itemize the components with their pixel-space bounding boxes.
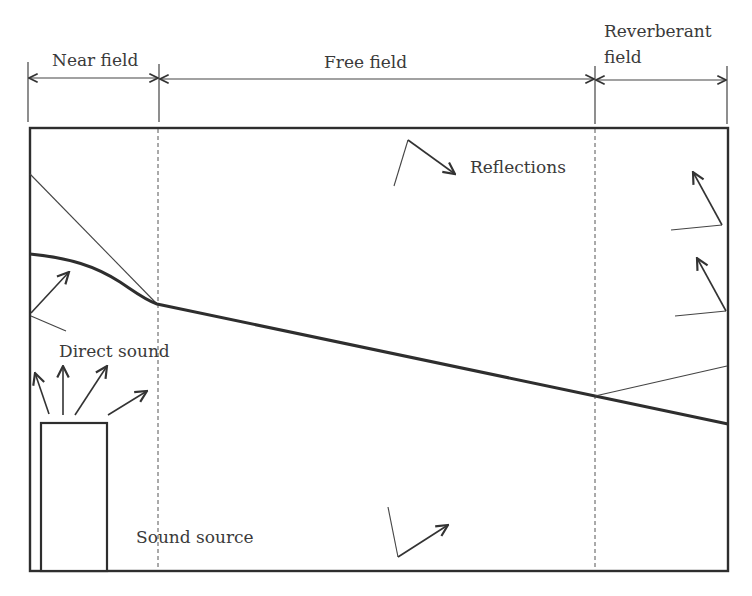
sound-source-box: [41, 423, 107, 571]
incident-ray-left: [31, 316, 66, 331]
free-field-label: Free field: [324, 52, 407, 72]
near-field-asymptote-line: [30, 174, 157, 304]
near-field-label: Near field: [52, 50, 138, 70]
reflected-ray-arrow-right-2: [697, 258, 726, 311]
dimension-arrows: [29, 78, 726, 80]
reflected-ray-arrow-right-1: [693, 172, 722, 225]
reflected-ray-arrow-left: [31, 272, 69, 313]
reflected-ray-arrow-top: [408, 140, 455, 174]
direct-sound-arrow-1: [35, 373, 49, 414]
reverberant-level-line: [595, 366, 727, 396]
direct-sound-arrow-3: [75, 366, 107, 415]
reverberant-field-label-line2: field: [604, 47, 642, 67]
sound-source-label: Sound source: [136, 527, 254, 547]
incident-ray-floor: [388, 507, 398, 557]
direct-sound-label: Direct sound: [59, 341, 170, 361]
direct-sound-arrow-4: [108, 391, 147, 415]
reflected-ray-arrow-floor: [398, 525, 448, 557]
direct-sound-arrows: [35, 366, 147, 415]
reflections-label: Reflections: [470, 157, 566, 177]
incident-ray-top: [394, 140, 408, 186]
incident-ray-right-2: [675, 311, 726, 316]
incident-ray-right-1: [671, 225, 722, 230]
sound-field-diagram: Near field Free field Reverberant field …: [0, 0, 752, 596]
reverberant-field-label-line1: Reverberant: [604, 21, 712, 41]
